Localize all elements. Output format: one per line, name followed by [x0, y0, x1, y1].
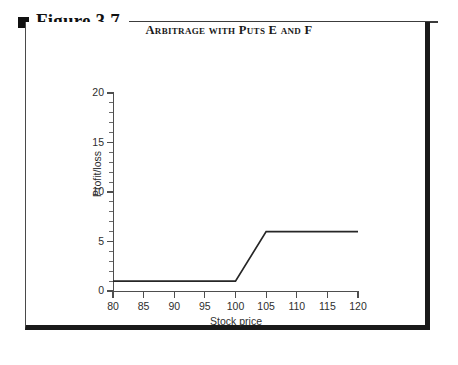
x-tick-label: 115: [310, 300, 344, 312]
x-tick: [204, 292, 205, 298]
x-tick: [327, 292, 328, 298]
y-tick-label: 0: [62, 284, 104, 296]
y-tick-major: [107, 241, 113, 242]
y-tick-minor: [109, 112, 113, 113]
x-tick: [174, 292, 175, 298]
y-axis-line: [113, 92, 114, 292]
y-tick-minor: [109, 102, 113, 103]
x-tick: [296, 292, 297, 298]
y-tick-minor: [109, 182, 113, 183]
chart-title: Arbitrage with Puts E and F: [0, 23, 458, 38]
y-tick-minor: [109, 152, 113, 153]
y-tick-minor: [109, 162, 113, 163]
y-tick-minor: [109, 211, 113, 212]
x-tick: [235, 292, 236, 298]
y-tick-minor: [109, 231, 113, 232]
x-tick-label: 120: [341, 300, 375, 312]
x-axis-title: Stock price: [113, 315, 359, 327]
x-tick: [112, 292, 113, 298]
y-axis-title: Profit/loss: [91, 151, 103, 197]
y-tick-major: [107, 142, 113, 143]
x-tick-label: 85: [127, 300, 161, 312]
y-tick-minor: [109, 122, 113, 123]
x-tick: [143, 292, 144, 298]
figure-page: Figure 3.7 Arbitrage with Puts E and F 0…: [0, 0, 458, 365]
x-tick: [357, 292, 358, 298]
y-tick-label: 20: [62, 86, 104, 98]
y-tick-minor: [109, 221, 113, 222]
y-tick-minor: [109, 172, 113, 173]
x-tick: [266, 292, 267, 298]
y-tick-minor: [109, 261, 113, 262]
y-tick-label: 5: [62, 235, 104, 247]
x-tick-label: 110: [280, 300, 314, 312]
x-tick-label: 90: [157, 300, 191, 312]
y-tick-minor: [109, 201, 113, 202]
y-tick-major: [107, 92, 113, 93]
y-tick-major: [107, 191, 113, 192]
x-tick-label: 95: [188, 300, 222, 312]
x-tick-label: 105: [249, 300, 283, 312]
y-tick-minor: [109, 281, 113, 282]
y-tick-label: 15: [62, 136, 104, 148]
y-tick-minor: [109, 271, 113, 272]
y-tick-minor: [109, 132, 113, 133]
x-tick-label: 80: [96, 300, 130, 312]
y-tick-minor: [109, 251, 113, 252]
x-tick-label: 100: [219, 300, 253, 312]
